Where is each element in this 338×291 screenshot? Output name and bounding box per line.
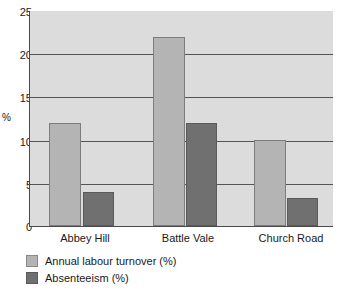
x-axis-label-abbey-hill: Abbey Hill <box>40 232 130 245</box>
legend-item-turnover: Annual labour turnover (%) <box>26 252 176 269</box>
bar-church-road-absenteeism <box>287 198 318 226</box>
bar-chart: % 25 20 15 10 5 0 Abbey Hill Battle Vale… <box>0 0 338 291</box>
legend-swatch-icon-turnover <box>26 255 38 267</box>
plot-area <box>29 11 333 227</box>
x-axis-label-church-road: Church Road <box>244 232 338 245</box>
bar-church-road-turnover <box>254 140 286 226</box>
legend: Annual labour turnover (%) Absenteeism (… <box>26 252 176 286</box>
bar-abbey-hill-absenteeism <box>83 192 114 226</box>
legend-label-absenteeism: Absenteeism (%) <box>45 272 129 284</box>
bar-battle-vale-turnover <box>153 37 185 226</box>
y-axis-title: % <box>2 113 11 123</box>
legend-label-turnover: Annual labour turnover (%) <box>45 255 176 267</box>
x-axis-label-battle-vale: Battle Vale <box>143 232 233 245</box>
bar-battle-vale-absenteeism <box>186 123 217 226</box>
legend-swatch-icon-absenteeism <box>26 272 38 284</box>
legend-item-absenteeism: Absenteeism (%) <box>26 269 176 286</box>
bar-abbey-hill-turnover <box>49 123 81 226</box>
